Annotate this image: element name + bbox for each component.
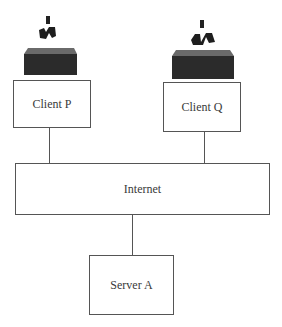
connector-client-q-internet xyxy=(204,132,205,163)
server-a-node: Server A xyxy=(89,255,174,315)
client-p-node: Client P xyxy=(13,80,91,128)
server-a-label: Server A xyxy=(110,278,152,293)
computer-terminal-icon xyxy=(171,17,235,80)
internet-node: Internet xyxy=(15,163,270,215)
connector-client-p-internet xyxy=(49,128,50,163)
client-p-label: Client P xyxy=(32,97,71,112)
client-q-node: Client Q xyxy=(163,82,241,132)
internet-label: Internet xyxy=(124,182,161,197)
client-q-label: Client Q xyxy=(182,100,223,115)
connector-internet-server-a xyxy=(132,215,133,255)
computer-terminal-icon xyxy=(22,14,78,76)
